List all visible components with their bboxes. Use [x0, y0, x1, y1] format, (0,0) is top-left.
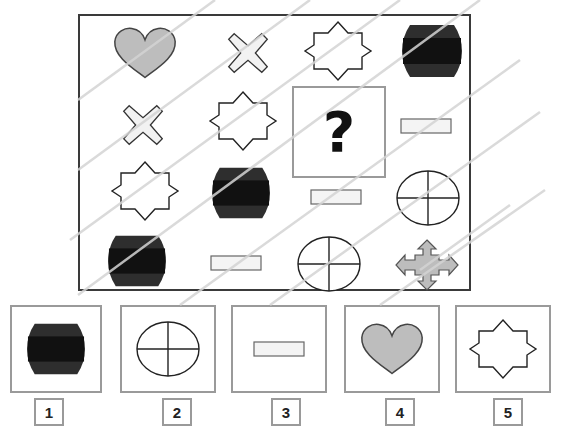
grid-cell-r3c2-barrel	[196, 158, 286, 228]
grid-cell-r4c2-rect	[191, 228, 281, 298]
grid-cell-r4c3-circle	[284, 229, 374, 299]
dark-barrel-icon	[402, 23, 462, 79]
grid-cell-r4c1-barrel	[92, 226, 182, 296]
question-mark-icon: ?	[323, 104, 355, 160]
dark-barrel-icon	[212, 165, 270, 221]
four-arrow-icon	[395, 239, 459, 291]
answer-option-1[interactable]	[10, 305, 102, 393]
option-number-3[interactable]: 3	[271, 398, 301, 426]
eight-point-star-icon	[303, 20, 373, 82]
answer-option-5[interactable]	[455, 305, 551, 393]
cross-icon	[120, 102, 166, 148]
rectangle-icon	[310, 189, 362, 205]
grid-cell-r1c3-star	[293, 16, 383, 86]
option-number-2[interactable]: 2	[162, 398, 192, 426]
grid-cell-r3c4-circle	[383, 163, 473, 233]
rectangle-icon	[210, 255, 262, 271]
option-number-1[interactable]: 1	[34, 398, 64, 426]
option-number-5[interactable]: 5	[493, 398, 523, 426]
eight-point-star-icon	[110, 160, 180, 222]
eight-point-star-icon	[208, 90, 278, 152]
heart-icon	[359, 322, 425, 376]
dark-barrel-icon	[27, 321, 85, 377]
eight-point-star-icon	[468, 318, 538, 380]
grid-cell-r4c4-arrows	[382, 230, 472, 300]
answer-option-3[interactable]	[231, 305, 327, 393]
circle-quartered-icon	[395, 169, 461, 227]
circle-quartered-icon	[135, 320, 201, 378]
grid-cell-r2c1-cross	[98, 90, 188, 160]
grid-cell-r1c4-barrel	[387, 16, 477, 86]
rectangle-icon	[253, 341, 305, 357]
answer-option-2[interactable]	[120, 305, 216, 393]
dark-barrel-icon	[108, 233, 166, 289]
grid-cell-r1c1-heart	[100, 18, 190, 88]
grid-cell-r2c2-star	[198, 86, 288, 156]
grid-cell-r3c3-rect	[291, 162, 381, 232]
grid-cell-r3c1-star	[100, 156, 190, 226]
cross-icon	[225, 30, 271, 76]
heart-icon	[112, 26, 178, 80]
circle-quartered-icon	[296, 235, 362, 293]
grid-cell-r1c2-cross	[203, 18, 293, 88]
grid-cell-r2c4-rect	[381, 91, 471, 161]
option-number-4[interactable]: 4	[385, 398, 415, 426]
answer-option-4[interactable]	[344, 305, 440, 393]
rectangle-icon	[400, 118, 452, 134]
